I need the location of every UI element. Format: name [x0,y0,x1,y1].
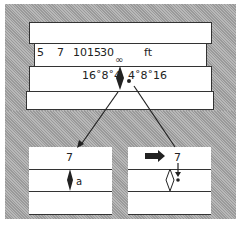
detail-right-open-diamond-icon [166,169,174,191]
aperture-dot-icon [127,79,131,83]
right-arrow-icon [145,150,165,162]
detail-right-dot-icon [176,178,180,182]
down-arrow-icon [175,172,181,177]
focus-index-diamond-icon [116,66,124,90]
detail-left-diamond-icon [67,169,73,191]
diagram-graphics [0,0,241,238]
